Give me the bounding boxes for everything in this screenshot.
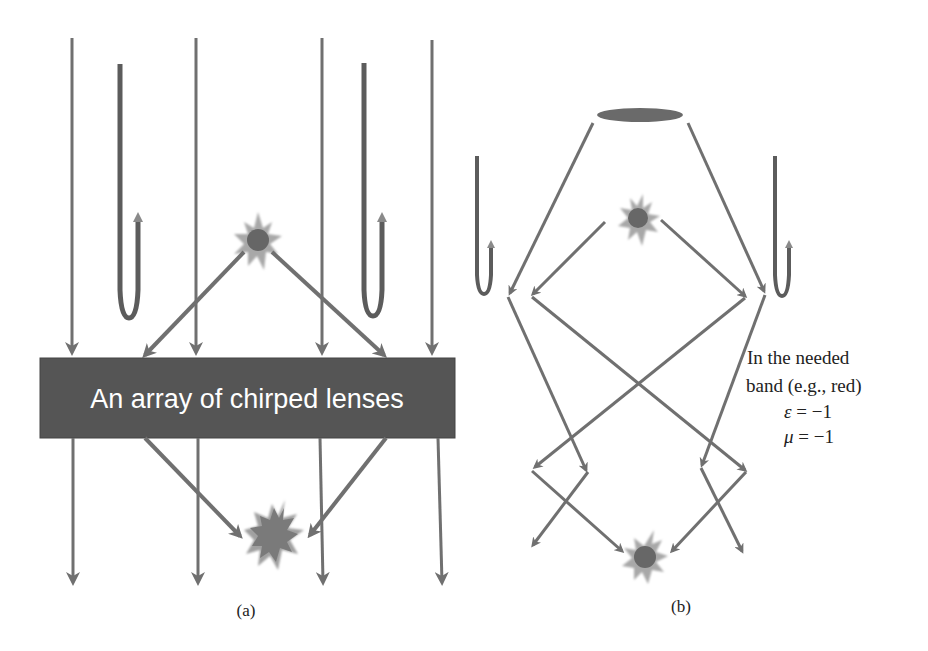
lens-array-label: An array of chirped lenses <box>90 384 404 414</box>
outgoing-rays-a <box>73 438 442 582</box>
u-arrow-left-b <box>477 156 495 294</box>
source-star-b <box>618 194 660 246</box>
top-ellipse-source-b <box>597 108 683 122</box>
slab-rays-b <box>508 295 765 470</box>
caption-a: (a) <box>237 601 256 620</box>
image-star-a <box>244 500 304 570</box>
epsilon-value: = −1 <box>792 401 832 422</box>
mu-equation: μ = −1 <box>783 426 834 447</box>
source-star-a <box>234 212 282 270</box>
diverging-rays-a <box>145 252 384 355</box>
u-arrow-right-b <box>775 156 793 296</box>
mu-value: = −1 <box>794 426 834 447</box>
panel-b: (b) In the needed band (e.g., red) ε = −… <box>477 108 862 616</box>
incoming-rays-a <box>72 38 432 352</box>
lower-rays-b <box>532 468 746 551</box>
mu-symbol: μ <box>783 426 794 447</box>
u-arrow-right-a <box>364 63 387 316</box>
u-arrow-left-a <box>120 64 143 318</box>
panel-a: An array of chirped lenses (a) <box>40 38 455 620</box>
image-star-b <box>622 530 668 584</box>
note-line-2: band (e.g., red) <box>746 375 862 397</box>
figure-canvas: An array of chirped lenses (a) <box>0 0 928 651</box>
note-line-1: In the needed <box>747 347 850 368</box>
chirped-lens-array: An array of chirped lenses <box>40 358 455 438</box>
caption-b: (b) <box>671 597 691 616</box>
epsilon-equation: ε = −1 <box>784 401 832 422</box>
material-parameters-note: In the needed band (e.g., red) ε = −1 μ … <box>746 347 862 447</box>
